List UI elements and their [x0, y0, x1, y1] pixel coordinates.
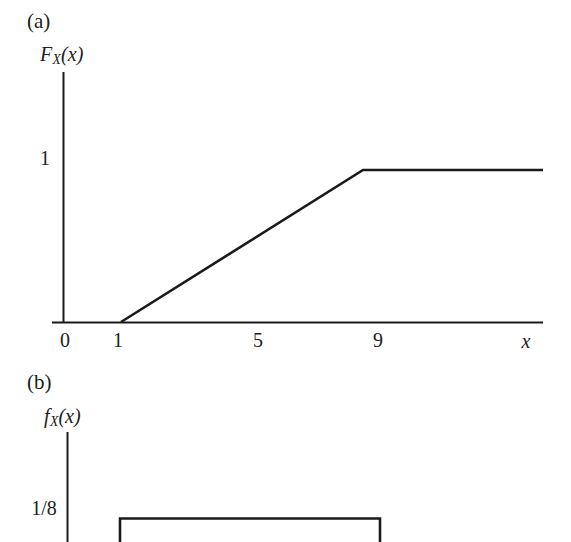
panel-a-cdf-curve — [121, 170, 543, 322]
figure-cdf-pdf-uniform: (a) FX(x) 1 0 1 5 9 x (b) fX(x) 1/8 — [0, 0, 571, 542]
panel-a-y-tick-label-1: 1 — [34, 148, 56, 168]
panel-b-pdf-rectangle — [120, 519, 380, 542]
panel-b-y-axis-title-arg: (x) — [58, 405, 80, 427]
panel-a-tag: (a) — [27, 11, 50, 32]
panel-a-y-axis-title: FX(x) — [40, 44, 83, 67]
panel-b-y-axis-title: fX(x) — [44, 406, 81, 429]
panel-a-y-axis-title-subscript: X — [53, 52, 61, 67]
panel-a-x-tick-label-5: 5 — [248, 330, 268, 350]
panel-a-x-tick-label-9: 9 — [368, 330, 388, 350]
panel-a-x-tick-label-1: 1 — [108, 330, 128, 350]
panel-a-y-axis-title-main: F — [40, 43, 52, 65]
panel-b-tag: (b) — [27, 372, 52, 393]
panel-a-x-axis-title: x — [516, 331, 536, 351]
panel-a-x-tick-label-0: 0 — [55, 330, 75, 350]
panel-a-axes — [52, 72, 543, 323]
panel-b-y-tick-label-one-eighth: 1/8 — [28, 498, 60, 518]
panel-a-y-axis-title-arg: (x) — [61, 43, 83, 65]
plot-canvas — [0, 0, 571, 542]
panel-b-y-axis-title-main: f — [44, 405, 50, 427]
